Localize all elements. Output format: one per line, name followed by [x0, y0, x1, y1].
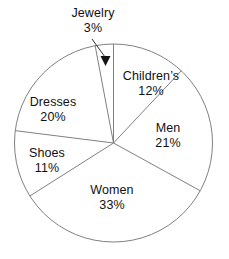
slice-label-women-name: Women: [79, 183, 145, 198]
slice-label-dresses: Dresses 20%: [17, 95, 89, 125]
pie-chart-graphic: [0, 0, 229, 259]
slice-label-men-name: Men: [144, 121, 192, 136]
slice-label-men-value: 21%: [144, 136, 192, 151]
slice-label-shoes-value: 11%: [19, 161, 75, 176]
slice-label-women-value: 33%: [79, 198, 145, 213]
slice-label-dresses-value: 20%: [17, 110, 89, 125]
slice-label-shoes: Shoes 11%: [19, 146, 75, 176]
slice-label-dresses-name: Dresses: [17, 95, 89, 110]
slice-label-jewelry: Jewelry 3%: [57, 6, 129, 36]
slice-label-childrens-name: Children’s: [113, 69, 189, 84]
slice-label-shoes-name: Shoes: [19, 146, 75, 161]
slice-label-childrens: Children’s 12%: [113, 69, 189, 99]
slice-label-men: Men 21%: [144, 121, 192, 151]
slice-label-jewelry-value: 3%: [57, 21, 129, 36]
slice-label-childrens-value: 12%: [113, 84, 189, 99]
slice-label-women: Women 33%: [79, 183, 145, 213]
slice-label-jewelry-name: Jewelry: [57, 6, 129, 21]
pie-chart: Jewelry 3% Children’s 12% Men 21% Women …: [0, 0, 229, 259]
